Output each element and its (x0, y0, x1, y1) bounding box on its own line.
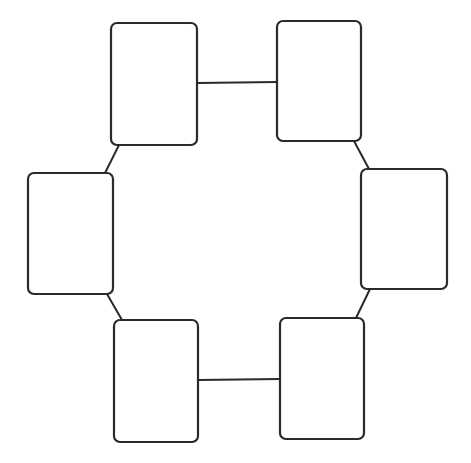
box-top-left-shape (111, 23, 197, 145)
connector-middle-right-to-bottom-right (356, 289, 370, 318)
connector-top-left-to-top-right (197, 82, 277, 83)
box-middle-left-shape (28, 173, 113, 294)
diagram-canvas (0, 0, 471, 463)
box-middle-right[interactable] (361, 169, 447, 289)
connector-bottom-right-to-bottom-left (198, 379, 280, 380)
connector-bottom-left-to-middle-left (107, 294, 122, 320)
box-top-left[interactable] (111, 23, 197, 145)
box-middle-left[interactable] (28, 173, 113, 294)
box-top-right-shape (277, 21, 361, 141)
box-bottom-left[interactable] (114, 320, 198, 442)
box-bottom-left-shape (114, 320, 198, 442)
box-bottom-right-shape (280, 318, 364, 439)
box-bottom-right[interactable] (280, 318, 364, 439)
box-top-right[interactable] (277, 21, 361, 141)
connector-top-right-to-middle-right (354, 141, 369, 169)
connector-middle-left-to-top-left (105, 145, 119, 173)
box-middle-right-shape (361, 169, 447, 289)
